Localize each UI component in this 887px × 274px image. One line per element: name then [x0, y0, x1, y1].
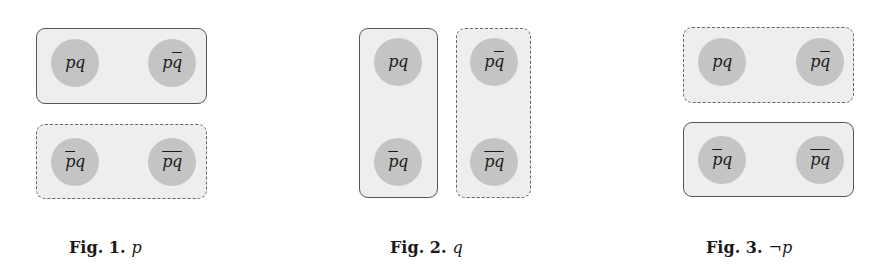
- term-pbar-q: pq: [698, 136, 746, 184]
- term-p-qbar: pq: [796, 38, 844, 86]
- term-label: pq: [712, 54, 732, 70]
- figure-3: pq pq pq pq Fig. 3.¬p: [0, 0, 887, 274]
- figure-caption: Fig. 3.¬p: [706, 238, 792, 257]
- term-pq: pq: [698, 38, 746, 86]
- term-label: pq: [810, 54, 830, 70]
- term-pq-bar: pq: [796, 136, 844, 184]
- term-label: pq: [712, 152, 732, 168]
- term-label: pq: [810, 152, 830, 168]
